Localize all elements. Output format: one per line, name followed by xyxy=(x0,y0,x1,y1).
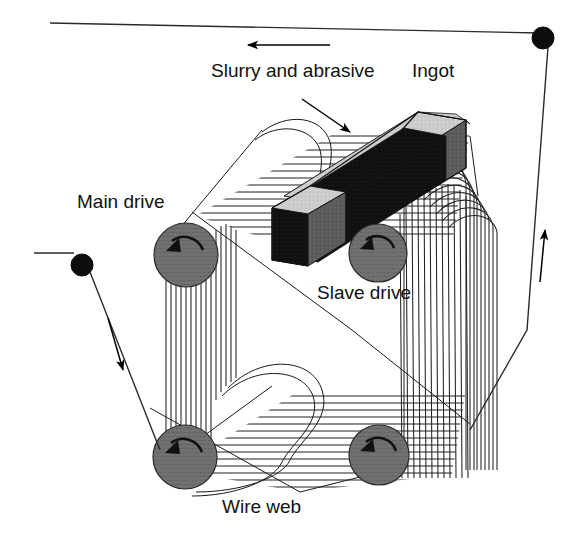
right-feed-arrow xyxy=(540,230,545,282)
label-ingot: Ingot xyxy=(412,60,454,82)
label-slave-drive: Slave drive xyxy=(317,282,411,304)
wire-web-right-vertical-bundle xyxy=(400,184,468,478)
main-drive-pulley xyxy=(154,223,218,287)
lower-right-pulley xyxy=(349,425,409,485)
slave-drive-pulley xyxy=(349,224,407,282)
lower-left-pulley xyxy=(153,425,217,489)
left-exit-arrow xyxy=(108,318,123,370)
slurry-pointer-arrow xyxy=(302,99,350,132)
left-descending-wire xyxy=(90,272,160,450)
label-main-drive: Main drive xyxy=(77,191,165,213)
label-slurry-and-abrasive: Slurry and abrasive xyxy=(211,60,375,82)
right-descending-wire xyxy=(470,47,548,430)
figure-canvas: Slurry and abrasive Ingot Main drive Sla… xyxy=(0,0,579,534)
label-wire-web: Wire web xyxy=(222,496,301,518)
top-supply-wire xyxy=(50,23,540,33)
supply-spool xyxy=(532,27,554,49)
